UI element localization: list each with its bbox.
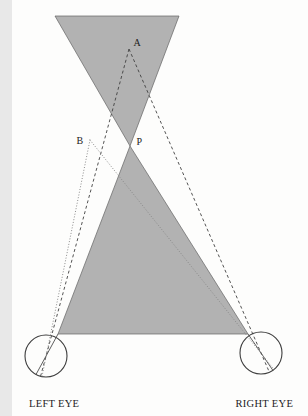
- upper-shaded-region: [55, 16, 179, 146]
- figure-page: A B P LEFT EYE RIGHT EYE: [12, 0, 308, 416]
- binocular-vision-diagram: A B P LEFT EYE RIGHT EYE: [12, 0, 308, 416]
- label-right-eye: RIGHT EYE: [236, 398, 294, 409]
- eyes-group: [25, 332, 282, 377]
- label-point-p: P: [137, 136, 143, 147]
- shaded-regions-group: [55, 16, 248, 334]
- lower-shaded-region: [58, 146, 248, 334]
- label-point-a: A: [134, 37, 142, 48]
- label-point-b: B: [77, 135, 84, 146]
- label-left-eye: LEFT EYE: [29, 398, 79, 409]
